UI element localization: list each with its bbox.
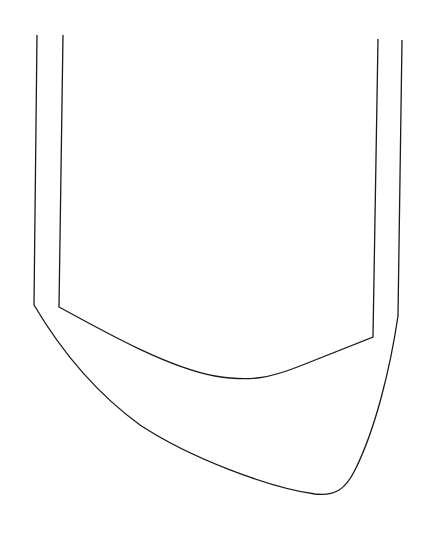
container-outline-drawing — [0, 0, 426, 534]
outer-outline — [34, 35, 402, 494]
inner-outline — [59, 35, 378, 379]
